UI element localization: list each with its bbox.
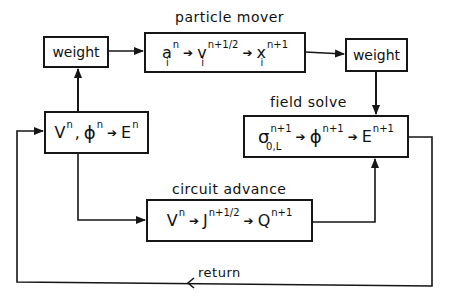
term-Q: Qn+1 (258, 213, 293, 229)
arrow-icon: ➔ (183, 46, 193, 60)
field-solve-box: σn+10,L ➔ ϕn+1 ➔ En+1 (243, 115, 409, 158)
arrow-icon: ➔ (348, 130, 358, 144)
term-V: Vn (167, 213, 185, 229)
particle-mover-box: ani ➔ vn+1/2i ➔ xn+1i (144, 32, 306, 73)
arrow-icon: ➔ (242, 46, 252, 60)
circuit-advance-box: Vn ➔ Jn+1/2 ➔ Qn+1 (146, 199, 313, 242)
particle-mover-title: particle mover (175, 9, 284, 25)
arrow-icon: ➔ (244, 214, 254, 228)
edge-start-to-circuit (78, 153, 145, 220)
term-v: vn+1/2i (197, 45, 238, 61)
circuit-advance-equation: Vn ➔ Jn+1/2 ➔ Qn+1 (167, 213, 293, 229)
potential-field-equation: Vn , ϕn ➔ En (54, 123, 138, 142)
field-solve-equation: σn+10,L ➔ ϕn+1 ➔ En+1 (258, 129, 394, 145)
circuit-advance-title: circuit advance (172, 181, 286, 197)
term-E: En (121, 125, 138, 141)
edge-mover-to-weight-right (305, 52, 344, 54)
weight-right-label: weight (353, 47, 400, 63)
weight-box-left: weight (43, 36, 109, 68)
term-phi: ϕn (84, 125, 103, 141)
term-sigma: σn+10,L (258, 129, 292, 145)
weight-left-label: weight (52, 44, 99, 60)
arrow-icon: ➔ (189, 214, 199, 228)
arrow-icon: ➔ (296, 130, 306, 144)
weight-box-right: weight (345, 38, 408, 72)
return-label: return (198, 265, 241, 280)
term-a: ani (162, 45, 179, 61)
field-solve-title: field solve (270, 94, 347, 110)
potential-field-box: Vn , ϕn ➔ En (44, 111, 149, 154)
edge-circuit-to-field (312, 159, 375, 222)
particle-mover-equation: ani ➔ vn+1/2i ➔ xn+1i (162, 45, 288, 61)
term-V: Vn (54, 125, 72, 141)
term-E: En+1 (362, 129, 394, 145)
arrow-icon: ➔ (107, 126, 117, 140)
term-x: xn+1i (257, 45, 289, 61)
term-J: Jn+1/2 (203, 213, 240, 229)
term-phi: ϕn+1 (310, 129, 344, 145)
